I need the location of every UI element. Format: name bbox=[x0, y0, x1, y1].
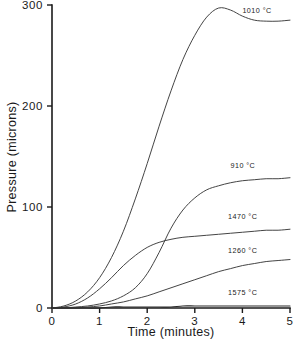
chart-svg: 0100200300 012345 1010 °C910 °C1470 °C12… bbox=[0, 0, 300, 344]
y-tick-label: 100 bbox=[22, 201, 43, 213]
series-label: 1470 °C bbox=[228, 212, 257, 221]
x-axis-title: Time (minutes) bbox=[127, 325, 214, 339]
series-curve bbox=[52, 260, 290, 309]
y-axis-tick-labels: 0100200300 bbox=[22, 0, 43, 314]
series-label: 1260 °C bbox=[228, 246, 257, 255]
x-tick-label: 4 bbox=[239, 315, 246, 327]
series-curve bbox=[52, 8, 290, 308]
y-tick-label: 200 bbox=[22, 100, 43, 112]
series-label-group: 1010 °C910 °C1470 °C1260 °C1575 °C bbox=[228, 6, 271, 297]
series-label: 910 °C bbox=[231, 161, 256, 170]
series-label: 1575 °C bbox=[228, 288, 257, 297]
y-tick-label: 300 bbox=[22, 0, 43, 11]
chart-series-group bbox=[52, 8, 290, 308]
y-tick-label: 0 bbox=[36, 302, 43, 314]
x-tick-label: 1 bbox=[96, 315, 103, 327]
x-tick-label: 0 bbox=[49, 315, 56, 327]
y-axis-title: Pressure (microns) bbox=[5, 102, 19, 213]
x-tick-label: 5 bbox=[287, 315, 294, 327]
chart-axes bbox=[52, 5, 290, 308]
pressure-vs-time-chart: 0100200300 012345 1010 °C910 °C1470 °C12… bbox=[0, 0, 300, 344]
series-label: 1010 °C bbox=[242, 6, 271, 15]
